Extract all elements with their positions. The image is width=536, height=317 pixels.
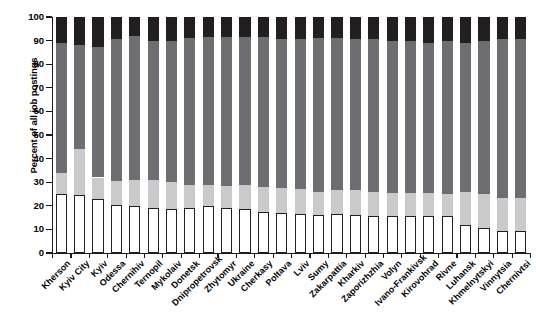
y-tick-label: 20 [4, 201, 44, 211]
y-tick-label: 80 [4, 59, 44, 69]
bar[interactable] [221, 17, 232, 253]
bar[interactable] [56, 17, 67, 253]
bar-segment-light [497, 198, 508, 231]
y-tick-label: 100 [4, 12, 44, 22]
y-tick-label: 30 [4, 177, 44, 187]
bar[interactable] [331, 17, 342, 253]
bar-segment-light [295, 189, 306, 214]
x-tick-mark [144, 254, 145, 259]
bar-segment-white [497, 231, 508, 253]
bar-segment-black [515, 17, 526, 39]
plot-area [52, 17, 530, 253]
bar-segment-white [442, 216, 453, 253]
bar-segment-black [111, 17, 122, 39]
x-tick-mark [70, 254, 71, 259]
bar[interactable] [515, 17, 526, 253]
bar-segment-black [387, 17, 398, 41]
y-tick-label: 50 [4, 130, 44, 140]
bar-segment-white [148, 208, 159, 253]
bar-segment-light [276, 188, 287, 213]
x-tick-mark [475, 254, 476, 259]
bar-segment-black [478, 17, 489, 41]
bar-segment-dark [295, 39, 306, 189]
bar[interactable] [460, 17, 471, 253]
x-tick-mark [52, 254, 53, 259]
bar-segment-light [313, 192, 324, 216]
x-tick-mark [456, 254, 457, 259]
bar-segment-dark [203, 37, 214, 185]
bar[interactable] [74, 17, 85, 253]
bar[interactable] [350, 17, 361, 253]
bar[interactable] [387, 17, 398, 253]
bar-segment-light [368, 192, 379, 217]
bar-segment-light [111, 181, 122, 205]
x-tick-mark [162, 254, 163, 259]
bar[interactable] [203, 17, 214, 253]
bar-segment-black [368, 17, 379, 39]
bar-segment-light [442, 194, 453, 216]
bar[interactable] [148, 17, 159, 253]
bar[interactable] [423, 17, 434, 253]
x-tick-mark [254, 254, 255, 259]
bar-segment-black [239, 17, 250, 37]
x-tick-mark [291, 254, 292, 259]
bar-segment-dark [148, 41, 159, 180]
x-tick-mark [273, 254, 274, 259]
y-tick-label: 70 [4, 83, 44, 93]
bar-segment-white [258, 212, 269, 253]
bar[interactable] [92, 17, 103, 253]
y-tick-label: 10 [4, 224, 44, 234]
bar-segment-light [56, 173, 67, 194]
bar-segment-dark [184, 38, 195, 184]
bar-segment-white [203, 206, 214, 253]
bar-segment-black [276, 17, 287, 39]
bar-segment-light [74, 149, 85, 195]
x-tick-mark [365, 254, 366, 259]
bar-segment-light [203, 185, 214, 206]
bar[interactable] [258, 17, 269, 253]
bar[interactable] [368, 17, 379, 253]
bar-segment-light [166, 182, 177, 209]
bar[interactable] [184, 17, 195, 253]
bar-segment-dark [221, 37, 232, 186]
x-tick-mark [383, 254, 384, 259]
bar-segment-black [460, 17, 471, 43]
bar-segment-white [313, 215, 324, 253]
bar[interactable] [129, 17, 140, 253]
bar-segment-light [423, 193, 434, 217]
bar-segment-dark [460, 43, 471, 192]
bar[interactable] [276, 17, 287, 253]
bar-segment-black [148, 17, 159, 41]
bar-segment-white [92, 199, 103, 253]
bar-segment-dark [129, 36, 140, 180]
bar[interactable] [497, 17, 508, 253]
bar-segment-black [74, 17, 85, 45]
bar[interactable] [111, 17, 122, 253]
bar[interactable] [313, 17, 324, 253]
bar-segment-black [129, 17, 140, 36]
bar-segment-dark [166, 41, 177, 183]
x-tick-mark [126, 254, 127, 259]
bar-segment-white [478, 228, 489, 253]
bar-segment-dark [387, 41, 398, 193]
bar[interactable] [295, 17, 306, 253]
bar-segment-dark [258, 37, 269, 187]
bar-segment-black [203, 17, 214, 37]
bar-segment-dark [239, 37, 250, 185]
bar[interactable] [405, 17, 416, 253]
bar-segment-light [405, 193, 416, 217]
bar[interactable] [442, 17, 453, 253]
bar[interactable] [166, 17, 177, 253]
bar[interactable] [478, 17, 489, 253]
bar-segment-white [166, 209, 177, 253]
bar-segment-black [350, 17, 361, 39]
x-tick-mark [530, 254, 531, 259]
bar-segment-black [92, 17, 103, 47]
bar[interactable] [239, 17, 250, 253]
bar-segment-white [111, 205, 122, 253]
bar-segment-dark [515, 39, 526, 197]
bar-segment-white [460, 225, 471, 253]
bar-segment-black [184, 17, 195, 38]
y-tick-label: 60 [4, 106, 44, 116]
bar-segment-black [295, 17, 306, 39]
